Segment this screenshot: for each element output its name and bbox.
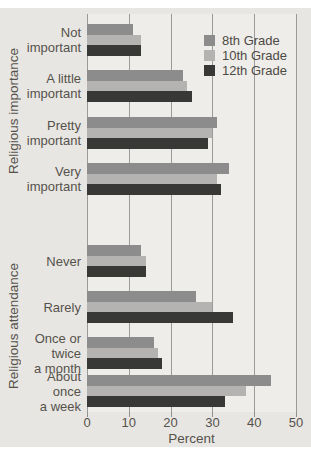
category-label-line: important [0, 133, 81, 148]
bar-10th-grade-about-once-a-week [87, 386, 246, 397]
category-label-pretty-important: Prettyimportant [0, 117, 81, 149]
category-label-lines: Never [0, 253, 81, 268]
bar-8th-grade-about-once-a-week [87, 375, 271, 386]
legend-swatch [204, 65, 215, 76]
category-label-lines: Rarely [0, 299, 81, 314]
category-label-lines: Aboutoncea week [0, 368, 81, 413]
x-tick-label: 50 [279, 415, 311, 430]
category-label-line: Rarely [0, 299, 81, 314]
category-label-lines: Veryimportant [0, 164, 81, 194]
bar-10th-grade-pretty-important [87, 128, 212, 139]
bar-12th-grade-about-once-a-week [87, 396, 225, 407]
bar-12th-grade-rarely [87, 312, 233, 323]
category-label-never: Never [0, 245, 81, 277]
bar-8th-grade-pretty-important [87, 117, 217, 128]
x-tick-label: 0 [70, 415, 104, 430]
bar-12th-grade-very-important [87, 184, 221, 195]
legend: 8th Grade10th Grade12th Grade [204, 33, 287, 78]
legend-item-10th-grade: 10th Grade [204, 48, 287, 63]
category-label-about-once-a-week: Aboutoncea week [0, 375, 81, 407]
gridline [296, 14, 297, 412]
bar-12th-grade-pretty-important [87, 138, 208, 149]
category-label-lines: A littleimportant [0, 71, 81, 101]
legend-label: 10th Grade [222, 48, 287, 63]
x-tick-label: 40 [237, 415, 271, 430]
bar-12th-grade-once-or-twice-a-month [87, 358, 162, 369]
category-label-a-little-important: A littleimportant [0, 70, 81, 102]
bar-12th-grade-a-little-important [87, 91, 192, 102]
x-tick-label: 20 [154, 415, 188, 430]
category-label-rarely: Rarely [0, 291, 81, 323]
bar-12th-grade-not-important [87, 45, 141, 56]
category-label-line: twice [0, 345, 81, 360]
category-label-once-or-twice-a-month: Once ortwicea month [0, 337, 81, 369]
category-label-very-important: Veryimportant [0, 163, 81, 195]
x-tick-label: 30 [195, 415, 229, 430]
legend-swatch [204, 35, 215, 46]
legend-label: 12th Grade [222, 63, 287, 78]
bar-10th-grade-never [87, 256, 146, 267]
figure-canvas: 01020304050PercentReligious importanceNo… [0, 0, 311, 451]
category-label-line: Once or [0, 330, 81, 345]
bar-10th-grade-a-little-important [87, 81, 187, 92]
category-label-line: important [0, 179, 81, 194]
category-label-line: a week [0, 398, 81, 413]
bar-10th-grade-very-important [87, 174, 217, 185]
legend-swatch [204, 50, 215, 61]
legend-item-8th-grade: 8th Grade [204, 33, 287, 48]
category-label-line: important [0, 86, 81, 101]
bar-10th-grade-rarely [87, 302, 212, 313]
bar-8th-grade-a-little-important [87, 70, 183, 81]
category-label-lines: Prettyimportant [0, 118, 81, 148]
legend-item-12th-grade: 12th Grade [204, 63, 287, 78]
bar-12th-grade-never [87, 266, 146, 277]
category-label-line: About [0, 368, 81, 383]
category-label-line: Very [0, 164, 81, 179]
bar-8th-grade-rarely [87, 291, 196, 302]
category-label-line: Never [0, 253, 81, 268]
category-label-not-important: Notimportant [0, 24, 81, 56]
bar-8th-grade-once-or-twice-a-month [87, 337, 154, 348]
bar-10th-grade-not-important [87, 35, 141, 46]
bar-10th-grade-once-or-twice-a-month [87, 348, 158, 359]
bar-8th-grade-not-important [87, 24, 133, 35]
category-label-line: once [0, 383, 81, 398]
legend-label: 8th Grade [222, 33, 280, 48]
category-label-lines: Notimportant [0, 25, 81, 55]
x-tick-label: 10 [112, 415, 146, 430]
x-axis-title: Percent [87, 431, 296, 446]
bar-8th-grade-never [87, 245, 141, 256]
category-label-line: A little [0, 71, 81, 86]
category-label-line: Pretty [0, 118, 81, 133]
category-label-line: Not [0, 25, 81, 40]
category-label-line: important [0, 40, 81, 55]
bar-8th-grade-very-important [87, 163, 229, 174]
